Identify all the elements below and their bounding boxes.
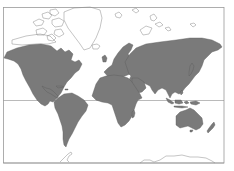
new-zealand (207, 122, 215, 133)
south-america (54, 93, 88, 147)
iceland-outline (92, 44, 100, 49)
world-map (0, 0, 234, 171)
antarctic-peninsula-outline (60, 152, 72, 162)
british-isles (102, 55, 107, 62)
arctic-islands-outline (12, 8, 196, 45)
tasmania (190, 130, 193, 132)
australia (176, 108, 203, 130)
antarctica-outline (140, 155, 215, 163)
greenland-outline (64, 7, 102, 50)
